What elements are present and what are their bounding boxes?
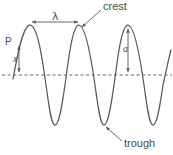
displacement-label: x [13,54,17,64]
amplitude-label: a [123,44,128,54]
point-p-label: P [5,37,12,47]
trough-leader-line [106,127,122,141]
crest-leader-line [82,10,101,27]
trough-label: trough [124,138,155,149]
crest-label: crest [103,1,127,12]
wave-diagram-canvas [0,0,173,155]
wavelength-label: λ [52,11,59,22]
wave-diagram-figure: crest trough λ a P x [0,0,173,155]
